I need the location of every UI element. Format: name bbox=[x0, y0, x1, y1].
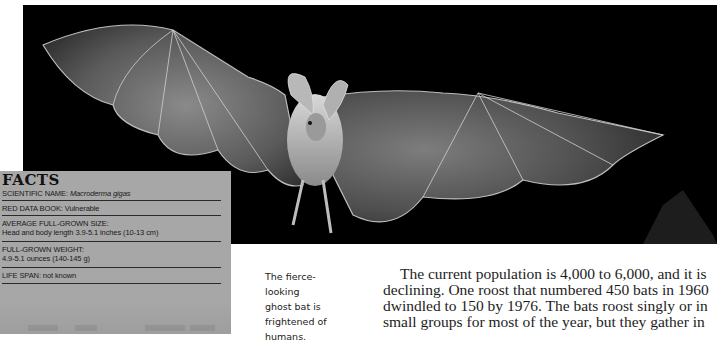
facts-box: FACTS SCIENTIFIC NAME: Macroderma gigas … bbox=[0, 171, 231, 334]
divider bbox=[2, 283, 221, 284]
fact-label: AVERAGE FULL-GROWN SIZE: bbox=[2, 219, 221, 228]
fact-label: RED DATA BOOK: bbox=[2, 204, 63, 213]
fact-life-span: LIFE SPAN: not known bbox=[2, 271, 221, 280]
fact-value: not known bbox=[43, 271, 76, 280]
divider bbox=[2, 215, 221, 216]
facts-title: FACTS bbox=[2, 172, 60, 188]
caption-line: humans. bbox=[265, 329, 345, 344]
fact-red-data-book: RED DATA BOOK: Vulnerable bbox=[2, 204, 221, 213]
caption-line: The fierce-looking bbox=[265, 269, 345, 299]
faded-background-image bbox=[0, 301, 231, 334]
caption-line: frightened of bbox=[265, 314, 345, 329]
caption-line: ghost bat is bbox=[265, 299, 345, 314]
body-line: The current population is 4,000 to 6,000… bbox=[383, 266, 717, 282]
fact-value: Head and body length 3.9-5.1 inches (10-… bbox=[2, 228, 221, 237]
body-line: declining. One roost that numbered 450 b… bbox=[383, 282, 717, 298]
fact-value: 4.9-5.1 ounces (140-145 g) bbox=[2, 254, 221, 263]
divider bbox=[2, 200, 221, 201]
fact-label: SCIENTIFIC NAME: bbox=[2, 189, 68, 198]
divider bbox=[2, 241, 221, 242]
body-line: dwindled to 150 by 1976. The bats roost … bbox=[383, 298, 717, 314]
fact-label: LIFE SPAN: bbox=[2, 271, 41, 280]
fact-value: Vulnerable bbox=[65, 204, 100, 213]
fact-value: Macroderma gigas bbox=[70, 189, 131, 198]
fact-average-size: AVERAGE FULL-GROWN SIZE: Head and body l… bbox=[2, 219, 221, 237]
photo-caption: The fierce-looking ghost bat is frighten… bbox=[265, 269, 345, 344]
body-line: small groups for most of the year, but t… bbox=[383, 314, 717, 330]
divider bbox=[2, 267, 221, 268]
body-paragraph: The current population is 4,000 to 6,000… bbox=[383, 266, 717, 330]
fact-weight: FULL-GROWN WEIGHT: 4.9-5.1 ounces (140-1… bbox=[2, 245, 221, 263]
fact-label: FULL-GROWN WEIGHT: bbox=[2, 245, 221, 254]
fact-scientific-name: SCIENTIFIC NAME: Macroderma gigas bbox=[2, 189, 221, 198]
